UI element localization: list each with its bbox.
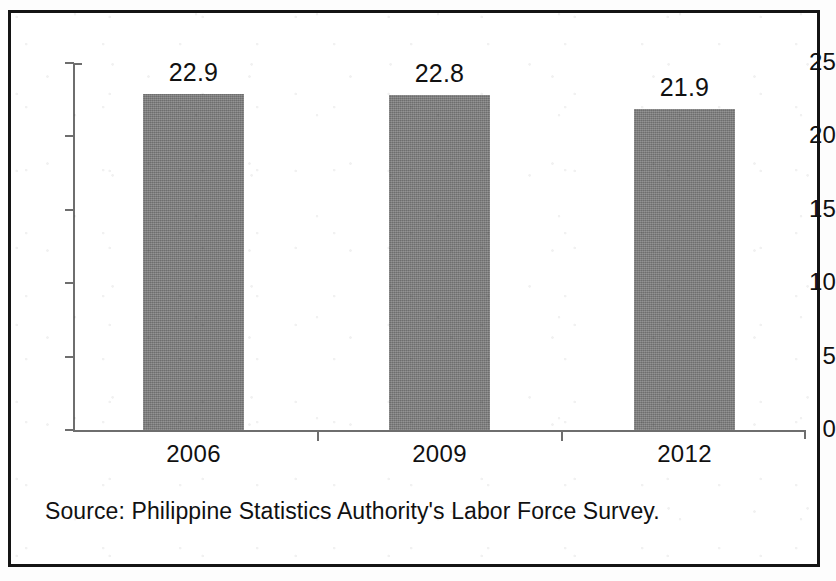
y-tick-label-15: 15 xyxy=(780,195,836,223)
y-axis-line xyxy=(73,63,75,431)
y-tick-label-20: 20 xyxy=(780,121,836,149)
bar-2006[interactable] xyxy=(143,94,244,430)
y-tick-15 xyxy=(65,209,74,211)
y-tick-25 xyxy=(65,62,74,64)
bar-2009[interactable] xyxy=(389,95,490,430)
bar-2012[interactable] xyxy=(634,109,735,430)
source-note: Source: Philippine Statistics Authority'… xyxy=(45,498,660,525)
bar-value-2012: 21.9 xyxy=(634,73,735,102)
y-tick-label-5: 5 xyxy=(780,342,836,370)
y-tick-10 xyxy=(65,282,74,284)
y-tick-5 xyxy=(65,356,74,358)
y-axis-top-cap xyxy=(73,63,82,65)
y-tick-label-0: 0 xyxy=(780,415,836,443)
x-axis-line xyxy=(73,430,806,432)
x-tick-right xyxy=(561,431,563,441)
bar-chart: 0 5 10 15 20 25 22.9 22.8 21.9 2006 2009… xyxy=(0,0,836,581)
x-category-label-2012: 2012 xyxy=(634,440,735,468)
x-category-label-2009: 2009 xyxy=(389,440,490,468)
bar-value-2006: 22.9 xyxy=(143,58,244,87)
x-category-label-2006: 2006 xyxy=(143,440,244,468)
x-tick-left xyxy=(317,431,319,441)
y-tick-label-10: 10 xyxy=(780,268,836,296)
y-tick-label-25: 25 xyxy=(780,48,836,76)
figure-container: 0 5 10 15 20 25 22.9 22.8 21.9 2006 2009… xyxy=(0,0,836,581)
y-tick-0 xyxy=(65,429,74,431)
bar-value-2009: 22.8 xyxy=(389,59,490,88)
y-tick-20 xyxy=(65,135,74,137)
